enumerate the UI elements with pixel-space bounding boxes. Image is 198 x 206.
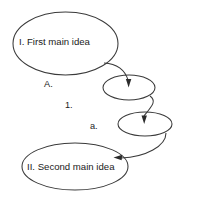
label-main-idea-2: II. Second main idea bbox=[27, 162, 114, 172]
level-marker-one: 1. bbox=[65, 101, 73, 110]
level-marker-a-upper: A. bbox=[44, 80, 53, 89]
label-main-idea-1: I. First main idea bbox=[19, 37, 90, 47]
diagram-graphics bbox=[0, 0, 198, 206]
level-marker-a-lower: a. bbox=[90, 122, 98, 131]
diagram-canvas: I. First main idea II. Second main idea … bbox=[0, 0, 198, 206]
ellipse-sub-node-1[interactable] bbox=[103, 75, 155, 100]
connector-sub2-to-main2[interactable] bbox=[121, 133, 166, 158]
